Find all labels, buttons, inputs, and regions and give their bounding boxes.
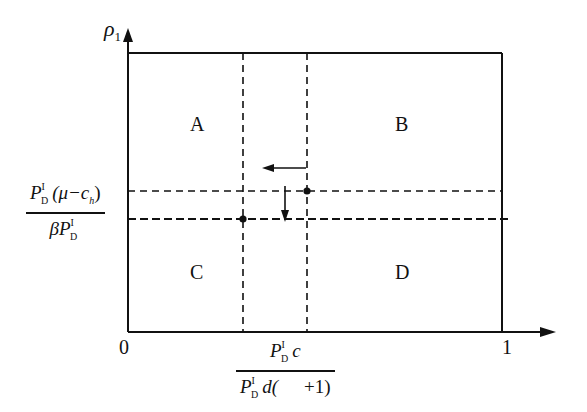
x-axis-arrow-icon xyxy=(540,327,556,337)
sub: D xyxy=(281,353,288,364)
left-arrowhead-icon xyxy=(262,164,274,172)
sub: D xyxy=(251,389,258,400)
sub: D xyxy=(41,195,48,206)
y-threshold-label: PID(μ−ch) βPID xyxy=(26,178,105,248)
region-label-d: D xyxy=(395,261,409,284)
x-tick-one: 1 xyxy=(502,336,512,359)
sub: D xyxy=(70,231,77,242)
x-tick-origin: 0 xyxy=(119,336,129,359)
y-threshold-numerator: PID(μ−ch) xyxy=(26,178,105,212)
close-paren: ) xyxy=(94,182,100,203)
y-threshold-denominator: βPID xyxy=(45,214,85,248)
denominator-tail: +1) xyxy=(304,376,331,397)
sup: I xyxy=(282,339,285,350)
sup: I xyxy=(252,375,255,386)
rho-subscript: 1 xyxy=(115,29,122,44)
sup: I xyxy=(42,181,45,192)
region-label-a: A xyxy=(190,113,204,136)
denominator-text: d( xyxy=(262,376,278,397)
y-axis-arrow-icon xyxy=(123,28,133,42)
beta-symbol: β xyxy=(49,218,58,239)
p-symbol: P xyxy=(270,340,282,361)
p-symbol: P xyxy=(240,376,252,397)
equilibrium-point-upper xyxy=(303,187,310,194)
rho-symbol: ρ xyxy=(104,16,115,41)
x-threshold-numerator: PIDc xyxy=(266,336,305,370)
region-label-c: C xyxy=(190,261,203,284)
down-arrowhead-icon xyxy=(281,210,289,222)
x-threshold-label: PIDc PIDd(+1) xyxy=(236,336,335,406)
equilibrium-point-lower xyxy=(239,215,246,222)
numerator-text: (μ−c xyxy=(52,182,89,203)
region-label-b: B xyxy=(395,113,408,136)
sup: I xyxy=(71,217,74,228)
y-axis-label: ρ1 xyxy=(104,16,121,45)
p-symbol: P xyxy=(59,218,71,239)
p-symbol: P xyxy=(30,182,42,203)
x-threshold-denominator: PIDd(+1) xyxy=(236,372,335,406)
numerator-text: c xyxy=(292,340,300,361)
